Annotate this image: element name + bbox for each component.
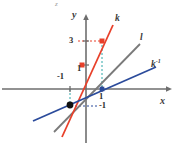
- x-axis: [2, 86, 172, 92]
- curve-label-k-inverse: k-1: [151, 58, 161, 70]
- tick-label-y-neg-1: -1: [99, 101, 106, 110]
- tick-label-x-neg-1: -1: [57, 72, 64, 81]
- figure-coordinate-plane: z y x k l k-1 3 1 -1 1 -1: [0, 0, 178, 145]
- graph-canvas: [0, 0, 178, 145]
- curve-label-k: k: [115, 14, 120, 24]
- curve-label-l: l: [140, 33, 143, 43]
- x-axis-arrow: [166, 86, 172, 92]
- x-axis-label: x: [160, 96, 165, 106]
- line-k-inverse: [33, 67, 156, 121]
- line-l: [54, 44, 140, 132]
- y-axis-arrow: [83, 14, 89, 20]
- curve-label-k-inverse-exponent: -1: [156, 58, 161, 64]
- stray-z-mark: z: [55, 1, 58, 8]
- tick-label-y-1: 1: [77, 64, 81, 73]
- point-intersection-neg1-neg1: [67, 102, 74, 109]
- tick-label-y-3: 3: [69, 36, 73, 45]
- y-axis-label: y: [72, 10, 76, 20]
- point-k-1-3: [100, 39, 105, 44]
